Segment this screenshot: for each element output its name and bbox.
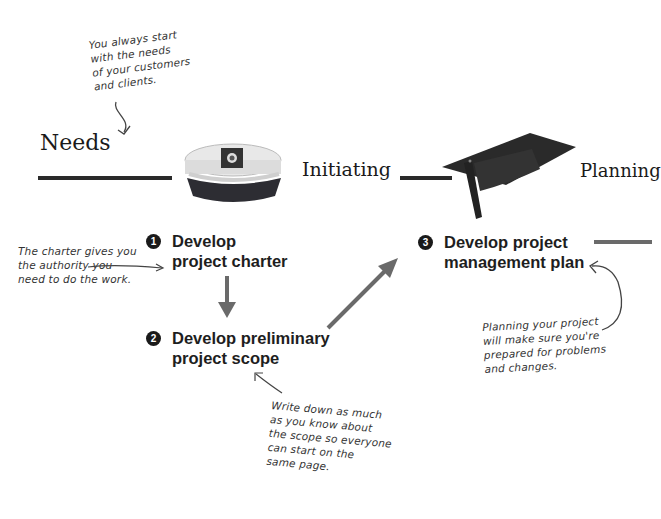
scope-annotation: Write down as much as you know about the… (266, 398, 395, 478)
